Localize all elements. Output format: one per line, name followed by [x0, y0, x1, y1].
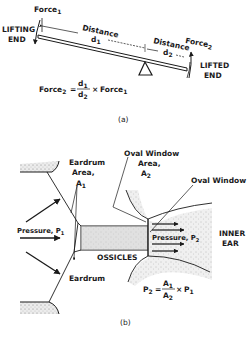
- lever-diagram: Force1 LIFTING END Distance d1 Distance …: [2, 5, 229, 124]
- d2-label: d2: [163, 48, 173, 58]
- svg-text:=: =: [155, 285, 161, 294]
- svg-text:Force1: Force1: [100, 85, 127, 95]
- oval-window-area-pointer: [113, 157, 128, 207]
- svg-text:A1: A1: [163, 279, 173, 289]
- lever-and-ear-diagram: Force1 LIFTING END Distance d1 Distance …: [0, 0, 252, 337]
- svg-text:=: =: [70, 85, 76, 94]
- oval-window-area-label-line1: Oval Window: [124, 149, 179, 158]
- lifted-end-label-line1: LIFTED: [200, 61, 229, 70]
- lifting-end-label-line1: LIFTING: [2, 25, 35, 34]
- pressure-p1-label: Pressure, P1: [17, 227, 65, 236]
- svg-text:d1: d1: [78, 79, 88, 89]
- eardrum-area-label-line1: Eardrum: [69, 158, 105, 167]
- eardrum-label: Eardrum: [69, 274, 105, 283]
- svg-text:P2: P2: [143, 285, 153, 295]
- pressure-p1-arrows: [20, 199, 60, 274]
- lifting-end-label-line2: END: [8, 35, 26, 44]
- a1-label: A1: [76, 179, 86, 189]
- svg-text:×: ×: [92, 85, 98, 94]
- pressure-formula: P2 = A1 A2 × P1: [143, 279, 194, 301]
- svg-text:P1: P1: [184, 285, 194, 295]
- inner-ear-label-line1: INNER: [219, 229, 245, 238]
- lever-formula: Force2 = d1 d2 × Force1: [39, 79, 127, 100]
- ossicles-label: OSSICLES: [97, 253, 137, 262]
- caption-b: (b): [120, 318, 131, 327]
- svg-text:A2: A2: [163, 291, 173, 301]
- force2-arrow-icon: [187, 52, 191, 78]
- fulcrum-icon: [139, 62, 152, 75]
- inner-ear-label-line2: EAR: [222, 239, 239, 248]
- a2-label: A2: [141, 169, 151, 179]
- ear-diagram: Eardrum Area, A1 Oval Window Area, A2 Ov…: [17, 149, 246, 327]
- pressure-p2-label: Pressure, P2: [152, 234, 200, 243]
- oval-window-label: Oval Window: [191, 176, 246, 185]
- oval-window-area-label-line2: Area,: [138, 159, 161, 168]
- d1-label: d1: [91, 35, 101, 45]
- force1-arrow-icon: [35, 18, 42, 44]
- upper-canal-wall: [20, 161, 59, 172]
- lifted-end-label-line2: END: [204, 71, 222, 80]
- force1-label: Force1: [34, 5, 61, 15]
- svg-text:Force2: Force2: [39, 85, 66, 95]
- svg-text:d2: d2: [78, 90, 88, 100]
- caption-a: (a): [118, 115, 129, 124]
- svg-text:×: ×: [176, 285, 182, 294]
- eardrum-area-label-line2: Area,: [72, 168, 95, 177]
